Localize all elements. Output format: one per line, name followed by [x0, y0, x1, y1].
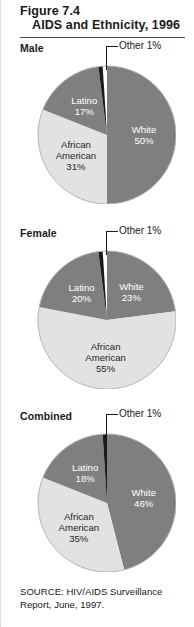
page-title: AIDS and Ethnicity, 1996 [20, 18, 186, 33]
callout-other-label: Other 1% [119, 40, 161, 51]
callout-leader-vertical [106, 414, 107, 438]
pie-chart-male [36, 64, 176, 204]
callout-leader-vertical [106, 46, 107, 70]
callout-leader-horizontal [106, 414, 118, 415]
pie-chart-female [36, 249, 176, 389]
source-note: SOURCE: HIV/AIDS Surveillance Report, Ju… [20, 585, 186, 611]
figure-title-block: Figure 7.4 AIDS and Ethnicity, 1996 [1, 0, 194, 33]
pie-slice-white [107, 66, 176, 204]
figure-container: Figure 7.4 AIDS and Ethnicity, 1996 Male… [0, 0, 194, 627]
panel-label-combined: Combined [20, 410, 72, 422]
callout-leader-horizontal [106, 46, 118, 47]
chart-panel-combined: CombinedOther 1%White46%AfricanAmerican3… [1, 406, 194, 591]
figure-number: Figure 7.4 [20, 4, 186, 18]
pie-chart-combined [36, 432, 176, 572]
panel-label-female: Female [20, 227, 57, 239]
chart-panel-female: FemaleOther 1%White23%AfricanAmerican55%… [1, 223, 194, 408]
chart-panel-male: MaleOther 1%White50%AfricanAmerican31%La… [1, 38, 194, 223]
panel-label-male: Male [20, 42, 44, 54]
callout-leader-horizontal [106, 231, 118, 232]
callout-other-label: Other 1% [119, 408, 161, 419]
callout-other-label: Other 1% [119, 225, 161, 236]
callout-leader-vertical [106, 231, 107, 255]
pie-slice-white [107, 251, 175, 320]
